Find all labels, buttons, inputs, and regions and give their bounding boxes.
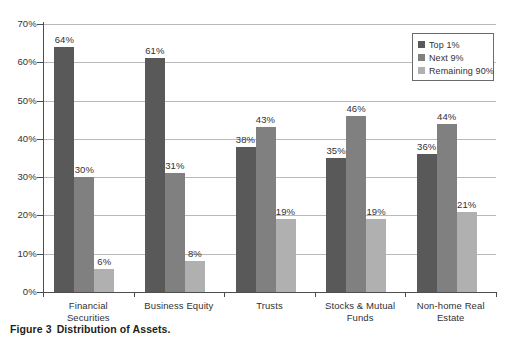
y-axis-tick (37, 62, 43, 63)
bar-value-label: 43% (249, 115, 283, 125)
y-axis-label: 10% (3, 249, 37, 259)
bar-value-label: 19% (359, 207, 393, 217)
y-axis-tick (37, 139, 43, 140)
y-axis-tick (37, 177, 43, 178)
y-axis-tick (37, 24, 43, 25)
figure-caption: Figure 3Distribution of Assets. (10, 323, 171, 336)
legend-item-label: Remaining 90% (429, 66, 494, 76)
y-axis-label-wrap: 70% (0, 19, 37, 29)
figure-caption-text: Distribution of Assets. (57, 323, 171, 335)
x-axis-category-label-line: Securities (33, 312, 144, 324)
bar (74, 177, 94, 292)
x-axis-tick (224, 292, 225, 297)
x-axis-tick (496, 292, 497, 297)
y-axis-tick (37, 101, 43, 102)
gridline (43, 24, 496, 25)
x-axis-category-label-line: Estate (395, 312, 506, 324)
x-axis-line (43, 292, 497, 293)
bar-value-label: 19% (269, 207, 303, 217)
bar-value-label: 44% (430, 112, 464, 122)
y-axis-line (43, 22, 44, 294)
x-axis-category-label: Non-home RealEstate (395, 300, 506, 323)
y-axis-label: 20% (3, 210, 37, 220)
bar (417, 154, 437, 292)
y-axis-label-wrap: 10% (0, 249, 37, 259)
x-axis-tick (315, 292, 316, 297)
x-axis-category-label-line: Non-home Real (395, 300, 506, 312)
bar-value-label: 8% (178, 249, 212, 259)
figure-container: 64%30%6%61%31%8%38%43%19%35%46%19%36%44%… (0, 0, 515, 342)
y-axis-label-wrap: 30% (0, 172, 37, 182)
legend-item: Remaining 90% (418, 64, 493, 77)
legend-item: Top 1% (418, 38, 493, 51)
gridline (43, 101, 496, 102)
bar-value-label: 6% (87, 257, 121, 267)
y-axis-label-wrap: 50% (0, 96, 37, 106)
bar (457, 212, 477, 292)
legend-swatch-icon (418, 41, 425, 48)
figure-caption-number: Figure 3 (10, 323, 52, 335)
bar-value-label: 46% (339, 104, 373, 114)
y-axis-label-wrap: 40% (0, 134, 37, 144)
bar-value-label: 21% (450, 200, 484, 210)
y-axis-label: 70% (3, 19, 37, 29)
bar (165, 173, 185, 292)
legend-item-label: Top 1% (429, 40, 460, 50)
bar (236, 147, 256, 292)
y-axis-label: 40% (3, 134, 37, 144)
bar (366, 219, 386, 292)
bar-value-label: 31% (158, 161, 192, 171)
legend-item-label: Next 9% (429, 53, 464, 63)
legend-swatch-icon (418, 67, 425, 74)
y-axis-label: 30% (3, 172, 37, 182)
bar-value-label: 61% (138, 46, 172, 56)
y-axis-label-wrap: 20% (0, 210, 37, 220)
x-axis-tick (134, 292, 135, 297)
bar (185, 261, 205, 292)
bar-value-label: 64% (47, 35, 81, 45)
bar (326, 158, 346, 292)
y-axis-label: 50% (3, 96, 37, 106)
bar-value-label: 30% (67, 165, 101, 175)
y-axis-label-wrap: 60% (0, 57, 37, 67)
legend-item: Next 9% (418, 51, 493, 64)
x-axis-tick (43, 292, 44, 297)
chart-legend: Top 1%Next 9%Remaining 90% (412, 33, 494, 81)
y-axis-tick (37, 215, 43, 216)
bar (276, 219, 296, 292)
legend-swatch-icon (418, 54, 425, 61)
y-axis-label: 60% (3, 57, 37, 67)
bar (346, 116, 366, 292)
bar (94, 269, 114, 292)
bar (145, 58, 165, 292)
y-axis-label: 0% (3, 287, 37, 297)
x-axis-tick (405, 292, 406, 297)
y-axis-label-wrap: 0% (0, 287, 37, 297)
y-axis-tick (37, 254, 43, 255)
